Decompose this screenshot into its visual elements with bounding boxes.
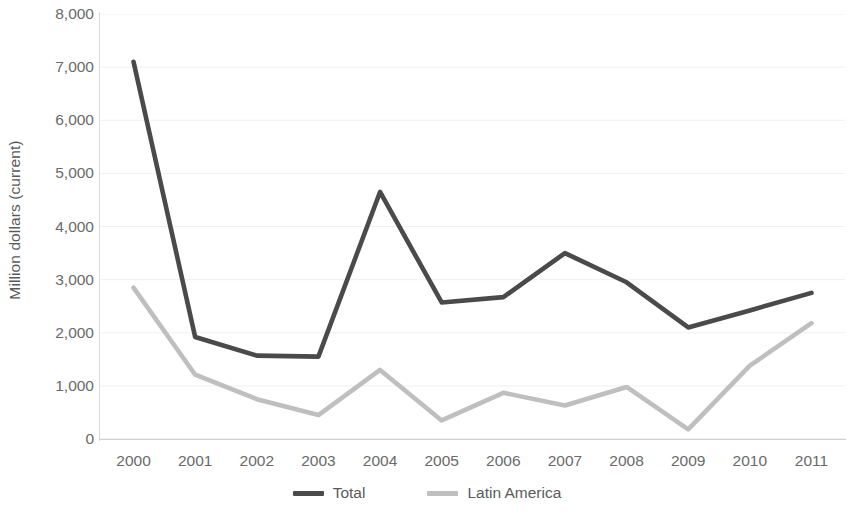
legend-swatch-icon — [427, 491, 458, 496]
y-axis-title-text: Million dollars (current) — [6, 140, 24, 299]
x-tick-label-2004: 2004 — [363, 452, 397, 470]
legend-item-latin-america[interactable]: Latin America — [427, 484, 561, 502]
legend-item-total[interactable]: Total — [293, 484, 366, 502]
legend-swatch-icon — [293, 491, 324, 496]
series-lines — [134, 62, 812, 430]
y-tick-label: 3,000 — [32, 271, 94, 289]
plot-area — [100, 14, 845, 439]
x-tick-label-2001: 2001 — [178, 452, 212, 470]
plot-svg — [100, 14, 845, 439]
y-tick-label: 5,000 — [32, 164, 94, 182]
series-line-total — [134, 62, 812, 357]
x-tick-label-2011: 2011 — [795, 452, 828, 470]
y-tick-label: 8,000 — [32, 5, 94, 23]
x-tick-label-2003: 2003 — [301, 452, 335, 470]
y-tick-label: 7,000 — [32, 58, 94, 76]
y-tick-label: 2,000 — [32, 324, 94, 342]
x-tick-label-2010: 2010 — [733, 452, 767, 470]
x-tick-label-2007: 2007 — [548, 452, 582, 470]
gridlines — [100, 14, 845, 439]
y-axis-title: Million dollars (current) — [0, 0, 30, 440]
line-chart: Million dollars (current) 01,0002,0003,0… — [0, 0, 854, 513]
x-axis-line — [99, 439, 846, 440]
legend-label: Total — [333, 484, 366, 502]
y-tick-label: 6,000 — [32, 111, 94, 129]
x-tick-label-2000: 2000 — [116, 452, 150, 470]
legend-label: Latin America — [467, 484, 561, 502]
x-tick-label-2008: 2008 — [609, 452, 643, 470]
x-axis-tick-labels: 2000200120022003200420052006200720082009… — [100, 452, 845, 478]
series-line-latin-america — [134, 288, 812, 430]
chart-legend: TotalLatin America — [0, 484, 854, 502]
y-tick-label: 1,000 — [32, 377, 94, 395]
y-tick-label: 4,000 — [32, 218, 94, 236]
x-tick-label-2009: 2009 — [671, 452, 705, 470]
x-tick-label-2006: 2006 — [486, 452, 520, 470]
y-axis-tick-labels: 01,0002,0003,0004,0005,0006,0007,0008,00… — [28, 0, 94, 513]
x-tick-label-2002: 2002 — [240, 452, 274, 470]
x-tick-label-2005: 2005 — [424, 452, 458, 470]
y-tick-label: 0 — [32, 430, 94, 448]
